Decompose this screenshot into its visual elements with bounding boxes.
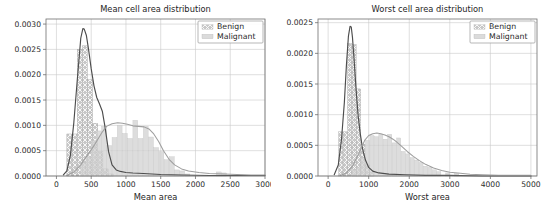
y-tick-label: 0.0010 bbox=[286, 110, 313, 119]
chart-legend[interactable]: BenignMalignant bbox=[470, 21, 535, 43]
legend-label-malignant: Malignant bbox=[489, 32, 528, 41]
x-tick-label: 4000 bbox=[481, 180, 500, 189]
y-tick-label: 0.0020 bbox=[286, 49, 313, 58]
y-tick-label: 0.0025 bbox=[14, 45, 41, 54]
x-tick-label: 0 bbox=[54, 180, 59, 189]
chart-panel-worst-area: 0.00000.00050.00100.00150.00200.00250100… bbox=[272, 0, 543, 218]
chart-panel-mean-area: 0.00000.00050.00100.00150.00200.00250.00… bbox=[0, 0, 271, 218]
x-tick-label: 3000 bbox=[440, 180, 459, 189]
legend-label-benign: Benign bbox=[489, 22, 516, 31]
chart-title: Mean cell area distribution bbox=[100, 4, 211, 14]
x-axis-label: Mean area bbox=[134, 192, 178, 202]
x-tick-label: 2500 bbox=[221, 180, 240, 189]
y-tick-label: 0.0015 bbox=[14, 96, 41, 105]
y-tick-label: 0.0015 bbox=[286, 80, 313, 89]
y-tick-label: 0.0010 bbox=[14, 121, 41, 130]
chart-svg-mean-area: 0.00000.00050.00100.00150.00200.00250.00… bbox=[0, 0, 271, 218]
x-tick-label: 0 bbox=[326, 180, 331, 189]
y-tick-label: 0.0000 bbox=[14, 172, 41, 181]
x-tick-label: 3000 bbox=[255, 180, 271, 189]
x-axis-label: Worst area bbox=[405, 192, 450, 202]
x-tick-label: 500 bbox=[84, 180, 99, 189]
chart-legend[interactable]: BenignMalignant bbox=[198, 21, 263, 43]
legend-label-malignant: Malignant bbox=[217, 32, 256, 41]
x-tick-label: 5000 bbox=[521, 180, 540, 189]
x-tick-label: 1000 bbox=[116, 180, 135, 189]
y-tick-label: 0.0005 bbox=[14, 146, 41, 155]
y-tick-label: 0.0000 bbox=[286, 172, 313, 181]
y-tick-label: 0.0005 bbox=[286, 141, 313, 150]
x-tick-label: 1000 bbox=[359, 180, 378, 189]
chart-title: Worst cell area distribution bbox=[372, 4, 484, 14]
y-tick-label: 0.0030 bbox=[14, 20, 41, 29]
x-tick-label: 2000 bbox=[400, 180, 419, 189]
y-tick-label: 0.0025 bbox=[286, 18, 313, 27]
legend-label-benign: Benign bbox=[217, 22, 244, 31]
y-tick-label: 0.0020 bbox=[14, 70, 41, 79]
x-tick-label: 2000 bbox=[186, 180, 205, 189]
figure-canvas: 0.00000.00050.00100.00150.00200.00250.00… bbox=[0, 0, 543, 218]
x-tick-label: 1500 bbox=[151, 180, 170, 189]
chart-svg-worst-area: 0.00000.00050.00100.00150.00200.00250100… bbox=[272, 0, 543, 218]
